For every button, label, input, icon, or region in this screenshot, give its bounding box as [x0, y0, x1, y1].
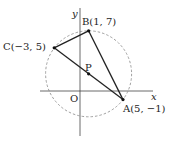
point-a-label: A(5, −1) — [122, 103, 166, 114]
segment-ab — [89, 31, 123, 100]
point-p-label: P — [85, 62, 92, 73]
origin-label: O — [70, 93, 78, 104]
coordinate-diagram: x y O A(5, −1) B(1, 7) C(−3, 5) P — [0, 0, 171, 149]
x-axis-label: x — [151, 91, 157, 102]
point-c — [53, 46, 56, 49]
segment-bc — [54, 31, 88, 48]
point-b — [87, 29, 90, 32]
point-b-label: B(1, 7) — [82, 16, 116, 27]
point-a — [121, 98, 124, 101]
y-axis-label: y — [71, 8, 78, 19]
point-c-label: C(−3, 5) — [3, 41, 46, 52]
